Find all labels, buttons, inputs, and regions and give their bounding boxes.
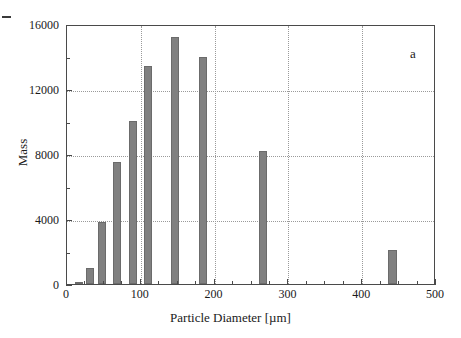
x-tick-label: 400 [331, 288, 391, 301]
plot-area [66, 25, 435, 285]
y-tick-minor [66, 58, 70, 59]
y-tick-label: 4000 [0, 214, 59, 226]
y-tick-label: 8000 [0, 149, 59, 161]
bar [98, 222, 106, 284]
x-tick-minor [121, 281, 122, 285]
panel-label: a [410, 47, 416, 61]
x-tick-major [361, 279, 362, 285]
x-tick-label: 100 [110, 288, 170, 301]
y-tick-minor [66, 123, 70, 124]
x-tick-minor [306, 281, 307, 285]
x-tick-minor [343, 281, 344, 285]
x-tick-minor [380, 281, 381, 285]
x-tick-label: 200 [184, 288, 244, 301]
bar [86, 268, 94, 284]
y-tick-major [66, 90, 72, 91]
bar [259, 151, 267, 284]
x-tick-minor [195, 281, 196, 285]
x-tick-major [214, 279, 215, 285]
gridline-horizontal [67, 156, 434, 157]
gridline-vertical [141, 26, 142, 284]
y-tick-minor [66, 253, 70, 254]
gridline-vertical [362, 26, 363, 284]
x-tick-minor [177, 281, 178, 285]
x-tick-major [66, 279, 67, 285]
x-tick-minor [417, 281, 418, 285]
y-axis-title: Mass [15, 113, 30, 193]
bar [144, 66, 152, 284]
x-tick-minor [398, 281, 399, 285]
bar [75, 282, 83, 284]
gridline-horizontal [67, 91, 434, 92]
y-tick-label: 12000 [0, 84, 59, 96]
x-tick-minor [269, 281, 270, 285]
y-tick-major [66, 220, 72, 221]
bar [113, 162, 121, 284]
x-tick-minor [251, 281, 252, 285]
bar [388, 250, 396, 284]
x-tick-label: 300 [257, 288, 317, 301]
y-tick-major [66, 155, 72, 156]
particle-size-distribution-figure: 04000800012000160000100200300400500 Part… [0, 0, 461, 338]
x-tick-label: 0 [36, 288, 96, 301]
x-tick-minor [103, 281, 104, 285]
x-tick-label: 500 [405, 288, 461, 301]
gridline-vertical [215, 26, 216, 284]
x-tick-minor [84, 281, 85, 285]
y-tick-major [66, 285, 72, 286]
scan-artifact-dash [2, 16, 11, 18]
gridline-vertical [288, 26, 289, 284]
y-tick-major [66, 25, 72, 26]
bar [129, 121, 137, 284]
x-tick-major [435, 279, 436, 285]
y-tick-label: 16000 [0, 19, 59, 31]
bar [199, 57, 207, 284]
bar [171, 37, 179, 284]
gridline-horizontal [67, 221, 434, 222]
x-tick-major [140, 279, 141, 285]
x-axis-title: Particle Diameter [µm] [0, 310, 461, 325]
x-tick-minor [324, 281, 325, 285]
y-tick-minor [66, 188, 70, 189]
x-tick-minor [232, 281, 233, 285]
x-tick-major [287, 279, 288, 285]
x-tick-minor [158, 281, 159, 285]
